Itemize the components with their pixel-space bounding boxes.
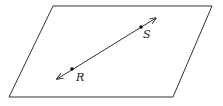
point-s-label: S [143, 28, 151, 41]
point-r [70, 67, 74, 71]
plane-diagram: R S [0, 0, 223, 106]
point-r-label: R [75, 71, 84, 84]
plane-parallelogram [9, 6, 212, 97]
